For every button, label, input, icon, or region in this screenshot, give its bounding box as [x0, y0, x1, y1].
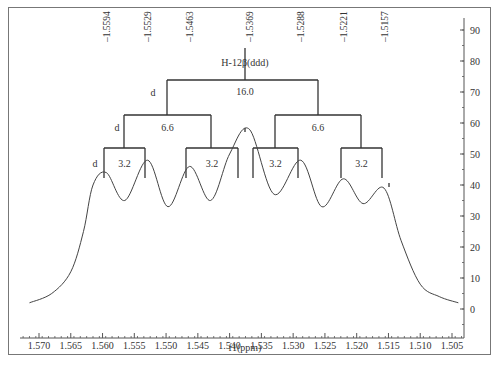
x-axis-label: f1(ppm): [229, 342, 262, 354]
coupling-j3-label: 3.2: [118, 158, 131, 169]
y-tick-label: 70: [470, 87, 480, 98]
coupling-tree: H-12β(ddd)16.0d6.66.6d3.23.23.23.2d: [93, 48, 390, 187]
x-tick-label: 1.570: [28, 340, 51, 351]
x-tick-label: 1.545: [187, 340, 210, 351]
y-tick-label: 60: [470, 118, 480, 129]
peak-label: –1.5594: [102, 11, 112, 43]
svg-text:–1.5529: –1.5529: [143, 11, 153, 43]
svg-text:–1.5157: –1.5157: [380, 11, 390, 43]
y-tick-label: 40: [470, 180, 480, 191]
svg-text:–1.5594: –1.5594: [102, 11, 112, 43]
spectrum-curve: [29, 128, 458, 303]
svg-text:–1.5288: –1.5288: [296, 11, 306, 43]
svg-text:–1.5369: –1.5369: [245, 11, 255, 43]
y-tick-label: 10: [470, 273, 480, 284]
peak-label: –1.5369: [245, 11, 255, 43]
y-tick-label: 20: [470, 242, 480, 253]
coupling-j2-label: 6.6: [161, 122, 174, 133]
y-tick-label: 50: [470, 149, 480, 160]
y-tick-label: 30: [470, 211, 480, 222]
x-tick-label: 1.565: [60, 340, 83, 351]
x-tick-label: 1.510: [409, 340, 432, 351]
multiplicity-d-label: d: [115, 122, 120, 133]
nmr-spectrum-chart: 1.5701.5651.5601.5551.5501.5451.5401.535…: [0, 0, 500, 381]
x-tick-label: 1.520: [345, 340, 368, 351]
peak-labels: –1.5594–1.5529–1.5463–1.5369–1.5288–1.52…: [102, 11, 390, 43]
svg-text:–1.5463: –1.5463: [185, 11, 195, 43]
peak-label: –1.5221: [339, 11, 349, 43]
x-tick-label: 1.525: [314, 340, 337, 351]
peak-label: –1.5529: [143, 11, 153, 43]
x-tick-label: 1.515: [377, 340, 400, 351]
coupling-j3-label: 3.2: [269, 158, 282, 169]
x-tick-label: 1.560: [91, 340, 114, 351]
x-tick-label: 1.530: [282, 340, 305, 351]
svg-text:–1.5221: –1.5221: [339, 11, 349, 43]
y-tick-label: 80: [470, 56, 480, 67]
peak-label: –1.5463: [185, 11, 195, 43]
coupling-j3-label: 3.2: [355, 158, 368, 169]
x-tick-label: 1.555: [123, 340, 146, 351]
y-tick-label: 90: [470, 25, 480, 36]
coupling-j2-label: 6.6: [312, 122, 325, 133]
x-tick-label: 1.505: [441, 340, 464, 351]
peak-label: –1.5288: [296, 11, 306, 43]
x-tick-label: 1.550: [155, 340, 178, 351]
coupling-j1-label: 16.0: [236, 86, 254, 97]
peak-label: –1.5157: [380, 11, 390, 43]
y-tick-label: 0: [470, 304, 475, 315]
multiplet-label: H-12β(ddd): [221, 57, 268, 69]
coupling-j3-label: 3.2: [206, 158, 219, 169]
multiplicity-d-label: d: [93, 158, 98, 169]
multiplicity-d-label: d: [151, 87, 156, 98]
